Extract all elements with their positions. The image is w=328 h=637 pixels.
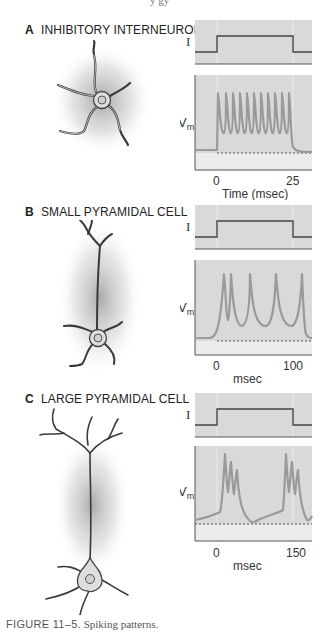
panel-title-text: LARGE PYRAMIDAL CELL — [41, 392, 189, 406]
inhibitory-interneuron-illustration — [0, 35, 180, 185]
current-plot-background — [195, 20, 312, 64]
figure-caption-text: Spiking patterns. — [84, 618, 159, 630]
panel-letter: C — [25, 392, 41, 406]
panel-c-plots: I Vm 0 150 msec — [180, 388, 328, 578]
panel-letter: B — [25, 205, 41, 219]
voltage-axis-label: Vm — [180, 115, 194, 132]
current-axis-label: I — [186, 34, 190, 49]
figure-number: FIGURE 11–5. — [6, 618, 81, 630]
voltage-axis-label: Vm — [180, 484, 194, 501]
current-axis-label: I — [186, 219, 190, 234]
panel-title-text: SMALL PYRAMIDAL CELL — [41, 205, 188, 219]
x-tick-end: 100 — [283, 359, 303, 373]
panel-a-plots: I Vm 0 25 Time (msec) — [180, 15, 328, 200]
voltage-axis-label: Vm — [180, 300, 194, 317]
panel-c-title: CLARGE PYRAMIDAL CELL — [25, 392, 189, 406]
x-axis-label: msec — [233, 372, 262, 385]
cut-off-header-text: y gy — [150, 0, 169, 6]
x-tick-0: 0 — [213, 359, 220, 373]
figure-caption: FIGURE 11–5. Spiking patterns. — [6, 618, 158, 630]
x-tick-0: 0 — [213, 546, 220, 560]
panel-b-plots: I Vm 0 100 msec — [180, 200, 328, 385]
large-pyramidal-cell-illustration — [0, 405, 190, 615]
x-axis-label: msec — [233, 559, 262, 573]
current-axis-label: I — [186, 407, 190, 422]
x-tick-end: 25 — [286, 174, 300, 188]
panel-b-title: BSMALL PYRAMIDAL CELL — [25, 205, 188, 219]
x-tick-0: 0 — [213, 174, 220, 188]
small-pyramidal-cell-illustration — [0, 220, 180, 385]
x-tick-end: 150 — [286, 546, 306, 560]
x-axis-label: Time (msec) — [222, 187, 288, 200]
